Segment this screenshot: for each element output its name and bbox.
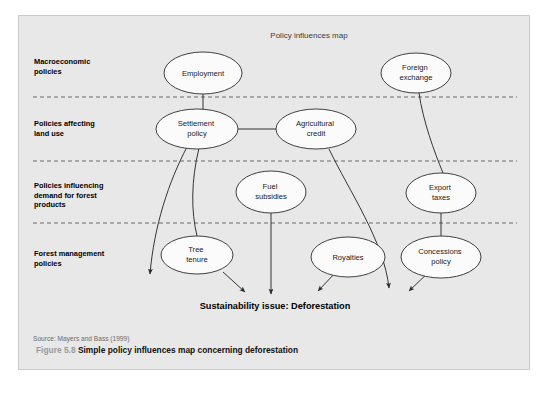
band-line: Macroeconomic xyxy=(34,57,90,66)
node-settlement-policy[interactable]: Settlement policy xyxy=(156,109,238,149)
node-line: Concessions xyxy=(418,247,462,256)
node-foreign-exchange[interactable]: Foreign exchange xyxy=(381,53,451,93)
node-line: policy xyxy=(431,257,451,266)
band-line: demand for forest xyxy=(34,191,97,200)
band-label-land-use: Policies affecting land use xyxy=(34,119,97,138)
node-line: Fuel xyxy=(263,182,278,191)
band-line: policies xyxy=(34,67,62,76)
caption-number: Figure 5.8 xyxy=(36,345,76,355)
source-note: Source: Mayers and Bass (1999) xyxy=(33,335,129,343)
band-label-forest-management: Forest management policies xyxy=(34,249,106,268)
node-concessions-policy[interactable]: Concessions policy xyxy=(401,236,481,278)
node-line: Royalties xyxy=(332,253,363,262)
band-line: products xyxy=(34,200,66,209)
node-line: subsidies xyxy=(255,192,287,201)
node-line: Employment xyxy=(182,69,225,78)
node-line: exchange xyxy=(400,73,433,82)
band-line: Forest management xyxy=(34,249,105,258)
node-line: tenure xyxy=(186,255,208,264)
band-line: policies xyxy=(34,259,62,268)
node-employment-label: Employment xyxy=(182,69,225,78)
node-line: credit xyxy=(307,129,326,138)
node-fuel-subsidies[interactable]: Fuel subsidies xyxy=(236,171,306,213)
node-line: taxes xyxy=(432,193,450,202)
node-line: Export xyxy=(429,183,452,192)
caption-text: Simple policy influences map concerning … xyxy=(78,345,298,355)
band-line: Policies affecting xyxy=(34,119,95,128)
node-royalties[interactable]: Royalties xyxy=(311,237,385,277)
node-tree-tenure-label: Tree tenure xyxy=(186,245,208,264)
policy-influences-diagram: Policy influences map Macroeconomic poli… xyxy=(19,16,531,371)
node-line: Foreign xyxy=(402,63,428,72)
band-label-forest-demand: Policies influencing demand for forest p… xyxy=(34,181,105,209)
edge-tree-tenure-to-deforestation xyxy=(223,272,245,292)
node-line: Agricultural xyxy=(296,119,334,128)
node-export-taxes[interactable]: Export taxes xyxy=(406,173,476,213)
node-agricultural-credit[interactable]: Agricultural credit xyxy=(276,109,356,149)
node-tree-tenure[interactable]: Tree tenure xyxy=(161,236,233,274)
node-line: policy xyxy=(187,129,207,138)
band-line: land use xyxy=(34,129,64,138)
node-employment[interactable]: Employment xyxy=(164,52,242,94)
band-label-macroeconomic: Macroeconomic policies xyxy=(34,57,92,76)
figure-frame: Policy influences map Macroeconomic poli… xyxy=(18,15,530,370)
node-royalties-label: Royalties xyxy=(332,253,363,262)
node-foreign-exchange-label: Foreign exchange xyxy=(400,63,433,82)
node-line: Tree xyxy=(188,245,203,254)
node-line: Settlement xyxy=(178,119,215,128)
outcome-label: Sustainability issue: Deforestation xyxy=(200,301,351,311)
map-title: Policy influences map xyxy=(270,31,348,40)
node-export-taxes-label: Export taxes xyxy=(429,183,453,202)
figure-caption: Figure 5.8 Simple policy influences map … xyxy=(36,345,506,355)
band-line: Policies influencing xyxy=(34,181,104,190)
